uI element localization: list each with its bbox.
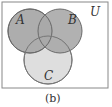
set-c-label: C — [44, 69, 53, 83]
set-a-label: A — [15, 13, 25, 27]
universe-label: U — [90, 5, 101, 19]
venn-diagram: A B C U (b) — [0, 0, 112, 107]
caption: (b) — [45, 92, 61, 105]
set-b-label: B — [67, 13, 77, 27]
